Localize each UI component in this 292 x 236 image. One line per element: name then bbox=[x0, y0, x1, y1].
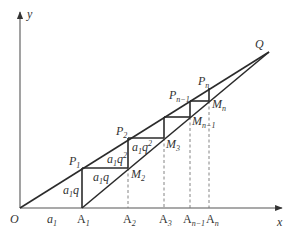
segment-label-p2m2: a1q2 bbox=[107, 151, 127, 168]
point-label-m2: M2 bbox=[130, 167, 145, 183]
x-axis-label: x bbox=[276, 215, 283, 229]
point-label-a1: A1 bbox=[77, 212, 90, 228]
point-label-a3: A3 bbox=[159, 212, 172, 228]
origin-label: O bbox=[10, 212, 19, 226]
ray-oq bbox=[20, 52, 269, 208]
point-label-p1: P1 bbox=[68, 154, 80, 170]
point-label-pn: Pn bbox=[197, 74, 209, 90]
segment-label-p1m2: a1q bbox=[93, 170, 109, 186]
point-label-pn-1: Pn−1 bbox=[168, 88, 190, 104]
point-label-mn: Mn bbox=[211, 97, 226, 113]
ray-a1q bbox=[82, 52, 269, 208]
point-label-q: Q bbox=[255, 37, 264, 51]
point-label-m3: M3 bbox=[165, 137, 180, 153]
segment-label-p1a1: a1q bbox=[63, 183, 79, 199]
y-axis-label: y bbox=[26, 7, 33, 21]
point-label-an-1: An−1 bbox=[183, 212, 205, 228]
geometric-sequence-diagram: y x O Q P1 P2 Pn−1 Pn M2 M3 Mn−1 Mn A1 A… bbox=[0, 0, 292, 236]
segment-label-p2m3: a1q2 bbox=[132, 139, 152, 156]
point-label-p2: P2 bbox=[115, 124, 127, 140]
point-label-an: An bbox=[206, 212, 219, 228]
point-label-mn-1: Mn−1 bbox=[191, 114, 215, 130]
segment-label-oa1: a1 bbox=[47, 212, 57, 228]
point-label-a2: A2 bbox=[123, 212, 136, 228]
